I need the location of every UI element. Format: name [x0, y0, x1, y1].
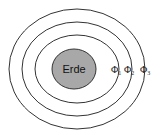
shell-3-label: Φ3: [140, 64, 150, 76]
shell-1-label: Φ1: [111, 64, 121, 76]
earth-label: Erde: [62, 63, 85, 75]
equipotential-diagram: Erde Φ1 Φ2 Φ3: [0, 0, 160, 135]
shell-2-label: Φ2: [124, 64, 134, 76]
